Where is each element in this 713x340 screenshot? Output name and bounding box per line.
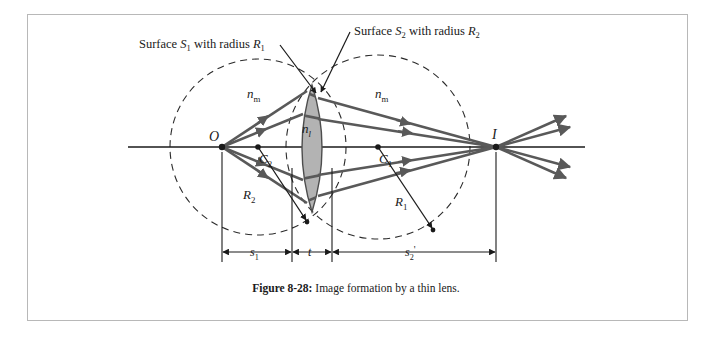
surface-2-callout: Surface S2 with radius R2 [354,24,480,40]
object-point-label: O [209,129,219,144]
medium-right-sub: m [382,94,389,104]
medium-left-sub: m [254,94,261,104]
figure-caption: Figure 8-28: Image formation by a thin l… [252,282,460,295]
radius-r1-sub: 1 [403,202,407,212]
thin-lens-diagram: Surface S1 with radius R1 Surface S2 wit… [0,0,713,340]
surface-2-radius-sub: 2 [476,30,480,40]
surface-1-radius-sub: 1 [261,43,265,53]
radius-r2-symbol: R [242,187,251,202]
center-c2-sub: 2 [268,159,272,169]
ray-arrow-upper-1 [258,116,268,123]
center-c1-label: C1 [379,151,392,169]
radius-r1-endpoint-dot [431,228,436,233]
surface-1-prefix: Surface [139,37,180,51]
center-c2-symbol: C [259,151,268,166]
surface-1-callout: Surface S1 with radius R1 [139,37,265,53]
radius-r1-label: R1 [394,194,407,212]
dimension-label-s2prime: s2' [405,244,416,262]
dimension-label-s1: s1 [250,245,259,262]
medium-index-right: nm [375,86,389,104]
surface-1-radius-symbol: R [252,37,261,51]
lens-shape [302,85,322,212]
radius-r2-endpoint-dot [305,220,310,225]
radius-r2-sub: 2 [251,195,255,205]
caption-body: Image formation by a thin lens. [312,282,459,295]
surface-2-radius-symbol: R [467,24,476,38]
radius-r1-symbol: R [394,194,403,209]
dimension-s1-sub: 1 [255,253,259,262]
dimension-s2-prime: ' [414,244,416,255]
center-c1-symbol: C [379,151,388,166]
surface-2-middle: with radius [406,24,468,38]
center-c2-label: C2 [259,151,272,169]
lens-body [302,85,322,212]
object-point-dot [219,144,225,150]
callout-leader-lines [280,32,350,93]
radius-r2-label: R2 [242,187,255,205]
image-point-dot [493,144,499,150]
ray-arrow-lower-2 [258,171,268,178]
caption-figure-number: Figure 8-28: [252,282,312,295]
surface-2-prefix: Surface [354,24,395,38]
medium-index-left: nm [247,86,261,104]
surface-1-leader [280,45,316,93]
image-point-label: I [491,127,498,142]
surface-1-middle: with radius [191,37,253,51]
center-c1-sub: 1 [388,159,392,169]
surface-2-leader [321,32,350,92]
